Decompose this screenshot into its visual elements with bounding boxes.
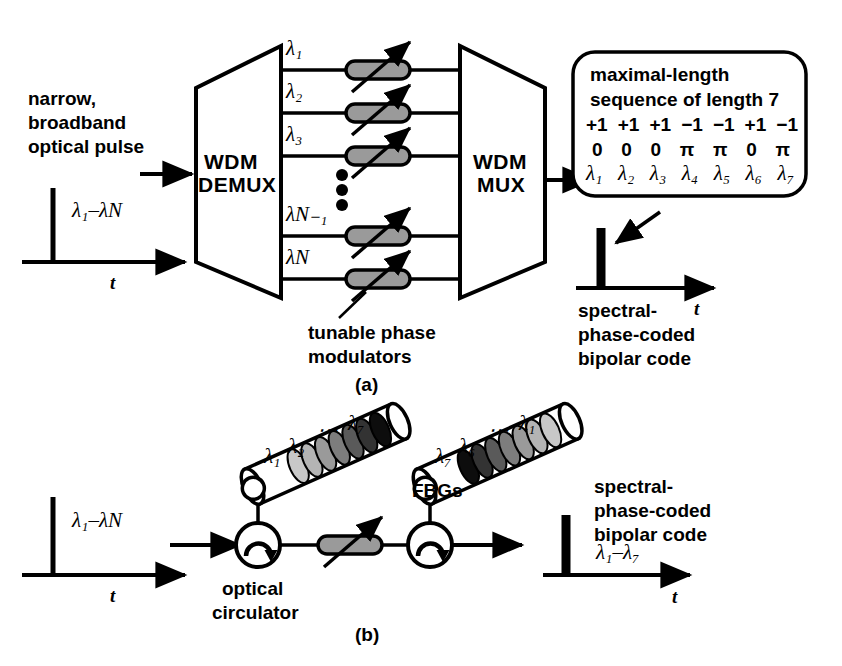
callout-wavelength-4: λ₄ (682, 161, 698, 186)
code-value-5: −1 (713, 114, 735, 136)
callout-line-2: sequence of length 7 (590, 89, 779, 111)
panel-a-caption: (a) (355, 374, 378, 396)
phase-modulator-1 (346, 42, 410, 92)
wdm-mux-label-line2: MUX (477, 173, 525, 198)
phase-value-5: π (713, 139, 728, 161)
wdm-demux-label-line2: DEMUX (198, 173, 276, 198)
modulator-caption-line1: tunable phase (308, 322, 436, 344)
callout-line-1: maximal-length (590, 64, 729, 86)
channel-label-lambda-3: λ₃ (286, 122, 302, 147)
fbg2-label-lambda-1: λ₁ (519, 411, 535, 436)
panel-b-output-pulse-label: λ₁–λ₇ (596, 540, 639, 565)
panel-a-input-pulse-label: λ₁–λN (72, 198, 122, 223)
input-caption-line1: narrow, (28, 88, 96, 110)
fbg2-label-lambda-7: λ₇ (435, 444, 451, 469)
panel-b-input-pulse-label: λ₁–λN (72, 508, 122, 533)
wdm-demux-label-line1: WDM (204, 150, 258, 175)
fbg2-label-lambda-6: λ₆ (459, 434, 475, 459)
modulator-caption-leader (339, 292, 366, 318)
phase-modulator-4 (346, 208, 410, 258)
phase-modulator-5 (346, 251, 410, 301)
fbg2-label-ellipsis: ⋯ (488, 418, 509, 443)
callout-wavelength-6: λ₆ (746, 161, 762, 186)
phase-value-1: 0 (592, 139, 603, 161)
channel-ellipsis-dots (336, 169, 348, 211)
phase-value-4: π (680, 139, 695, 161)
panel-a-input-axis-label: t (110, 272, 115, 294)
callout-phase-row: 0 0 0 π π 0 π (592, 139, 790, 161)
fbg1-label-lambda-2: λ₂ (288, 434, 304, 459)
panel-b-output-axis-label: t (672, 586, 677, 608)
channel-label-lambda-n-minus-1: λN₋₁ (286, 202, 327, 227)
callout-wavelength-3: λ₃ (650, 161, 666, 186)
panel-b-input-axis-label: t (110, 585, 115, 607)
callout-wavelength-2: λ₂ (618, 161, 634, 186)
panel-a-output-caption-line3: bipolar code (578, 348, 691, 370)
callout-wavelength-1: λ₁ (586, 161, 602, 186)
phase-value-7: π (775, 139, 790, 161)
optical-circulator-1 (236, 523, 280, 567)
input-caption-line3: optical pulse (28, 136, 144, 158)
callout-pointer-arrow (616, 212, 660, 243)
optical-circulator-2 (408, 523, 452, 567)
phase-value-2: 0 (621, 139, 632, 161)
phase-modulator-3 (346, 128, 410, 178)
channel-label-lambda-1: λ₁ (286, 36, 302, 61)
code-value-4: −1 (681, 114, 703, 136)
callout-code-row: +1 +1 +1 −1 −1 +1 −1 (586, 114, 798, 136)
code-value-6: +1 (745, 114, 767, 136)
fbg1-label-lambda-7: λ₇ (348, 411, 364, 436)
channel-label-lambda-2: λ₂ (286, 79, 302, 104)
input-caption-line2: broadband (28, 112, 126, 134)
modulator-caption-line2: modulators (308, 346, 411, 368)
code-value-3: +1 (649, 114, 671, 136)
callout-wavelength-5: λ₅ (714, 161, 730, 186)
code-value-7: −1 (776, 114, 798, 136)
callout-wavelength-7: λ₇ (778, 161, 794, 186)
panel-a-output-axis-label: t (694, 298, 699, 320)
phase-value-3: 0 (651, 139, 662, 161)
panel-b-output-caption-line2: phase-coded (594, 500, 711, 522)
callout-wavelength-row: λ₁ λ₂ λ₃ λ₄ λ₅ λ₆ λ₇ (586, 161, 794, 186)
panel-a-output-pulse-plot (576, 228, 714, 288)
phase-value-6: 0 (746, 139, 757, 161)
fbg1-label-ellipsis: ⋯ (317, 418, 338, 443)
fbg1-label-lambda-1: λ₁ (264, 444, 280, 469)
fbg-array-1 (235, 400, 415, 508)
circulator-caption-line2: circulator (212, 602, 299, 624)
panel-b-caption: (b) (355, 624, 379, 646)
code-value-1: +1 (586, 114, 608, 136)
panel-a-output-caption-line2: phase-coded (578, 324, 695, 346)
panel-b-phase-modulator (318, 517, 382, 567)
code-value-2: +1 (618, 114, 640, 136)
wdm-mux-label-line1: WDM (473, 150, 527, 175)
phase-modulator-2 (346, 85, 410, 135)
channel-label-lambda-n: λN (286, 245, 309, 270)
fbgs-label: FBGs (412, 480, 463, 502)
optical-spectral-phase-coding-figure: narrow, broadband optical pulse λ₁–λN t … (0, 0, 842, 666)
circulator-caption-line1: optical (222, 578, 283, 600)
panel-a-output-caption-line1: spectral- (578, 300, 657, 322)
panel-b-output-caption-line1: spectral- (594, 476, 673, 498)
